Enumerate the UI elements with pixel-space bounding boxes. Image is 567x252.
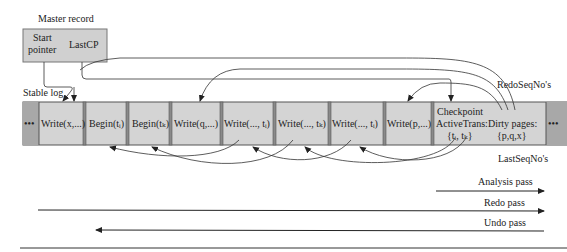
redo-seq-label: RedoSeqNo's [497,79,551,90]
redo-pass-arrow [38,210,544,211]
log-cell-write-ti-2: Write(..., tᵢ) [332,118,378,130]
dirty-pages-label: Dirty pages: [488,118,537,129]
start-pointer-label-2: pointer [28,44,57,55]
analysis-pass-label: Analysis pass [478,176,533,187]
undo-pass-label: Undo pass [484,217,526,228]
dirty-pages-value: {p,q,x} [497,130,527,141]
last-cp-label: LastCP [69,39,99,50]
redo-pass-label: Redo pass [484,197,525,208]
log-ellipsis-left: ••• [24,118,35,129]
last-seq-label: LastSeqNo's [498,153,548,164]
log-cell-begin-tk: Begin(tₖ) [132,118,169,130]
aries-recovery-diagram: Master record Start pointer LastCP Stabl… [0,0,567,252]
stable-log-label: Stable log [23,87,63,98]
log-cell-write-ti-1: Write(..., tᵢ) [224,118,270,130]
log-cell-write-tk: Write(..., tₖ) [278,118,326,130]
log-cell-write-x: Write(x,...) [41,118,85,130]
log-cell-begin-ti: Begin(tᵢ) [89,118,124,130]
log-cell-write-p: Write(p,...) [387,118,431,130]
active-trans-label: ActiveTrans: [436,118,488,129]
active-trans-value: {tᵢ, tₖ} [447,130,472,141]
undo-pass-arrow [96,230,544,231]
master-record-title: Master record [38,13,94,24]
log-ellipsis-right: ••• [548,118,559,129]
start-pointer-label-1: Start [33,32,52,43]
checkpoint-label: Checkpoint [437,106,483,117]
log-cell-write-q: Write(q,...) [174,118,218,130]
